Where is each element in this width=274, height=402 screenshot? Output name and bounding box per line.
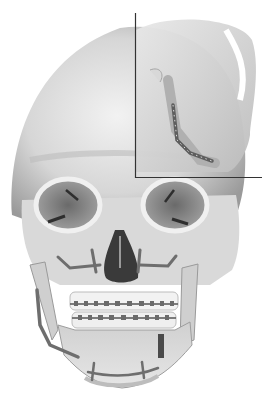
left-orbit bbox=[36, 179, 100, 231]
skull-illustration bbox=[0, 0, 274, 402]
mandible bbox=[58, 322, 192, 388]
teeth-braces bbox=[70, 292, 178, 328]
mandible-right-osteotomy-plate bbox=[158, 334, 164, 358]
right-orbit bbox=[143, 179, 207, 231]
inset-lateral-view bbox=[136, 19, 256, 172]
